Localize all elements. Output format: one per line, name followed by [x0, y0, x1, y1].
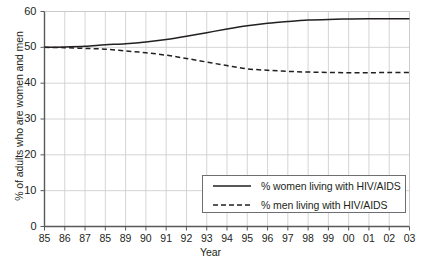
legend-label-men: % men living with HIV/AIDS	[261, 199, 387, 211]
y-tick-label: 10	[11, 185, 37, 196]
x-tick-label: 03	[400, 233, 420, 244]
x-tick-label: 85	[95, 233, 115, 244]
legend-swatch-dashed-line-icon	[212, 199, 252, 211]
x-tick-label: 02	[379, 233, 399, 244]
x-tick-label: 99	[318, 233, 338, 244]
plot-area	[0, 0, 421, 264]
x-tick-label: 90	[136, 233, 156, 244]
legend-item-men: % men living with HIV/AIDS	[203, 195, 405, 214]
x-tick-label: 92	[176, 233, 196, 244]
x-tick-label: 97	[278, 233, 298, 244]
x-tick-label: 96	[258, 233, 278, 244]
legend-label-women: % women living with HIV/AIDS	[261, 180, 401, 192]
x-tick-label: 85	[35, 233, 55, 244]
x-tick-label: 91	[156, 233, 176, 244]
chart-legend: % women living with HIV/AIDS % men livin…	[202, 175, 406, 213]
x-tick-label: 89	[116, 233, 136, 244]
x-tick-label: 87	[75, 233, 95, 244]
x-tick-label: 01	[359, 233, 379, 244]
y-tick-label: 40	[11, 77, 37, 88]
x-tick-label: 95	[237, 233, 257, 244]
y-tick-label: 60	[11, 6, 37, 17]
y-tick-label: 0	[11, 221, 37, 232]
legend-item-women: % women living with HIV/AIDS	[203, 176, 405, 195]
y-tick-label: 20	[11, 149, 37, 160]
y-tick-label: 50	[11, 41, 37, 52]
legend-swatch-solid-line-icon	[212, 180, 252, 192]
line-chart: % of adults who are women and men 010203…	[0, 0, 421, 264]
x-tick-label: 93	[197, 233, 217, 244]
x-tick-label: 98	[298, 233, 318, 244]
x-tick-label: 86	[55, 233, 75, 244]
x-tick-label: 00	[339, 233, 359, 244]
x-tick-label: 94	[217, 233, 237, 244]
x-axis-title: Year	[0, 246, 421, 258]
y-tick-label: 30	[11, 113, 37, 124]
